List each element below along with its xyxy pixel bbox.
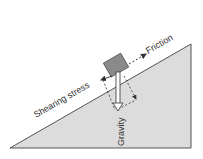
diagram-svg: Friction Shearing stress Gravity [0,0,203,159]
slope-force-diagram: Friction Shearing stress Gravity [0,0,203,159]
slope-triangle [10,44,191,148]
gravity-label: Gravity [116,117,126,146]
shearing-stress-arrow [101,76,112,80]
friction-label: Friction [144,32,175,55]
friction-arrow [129,54,146,64]
